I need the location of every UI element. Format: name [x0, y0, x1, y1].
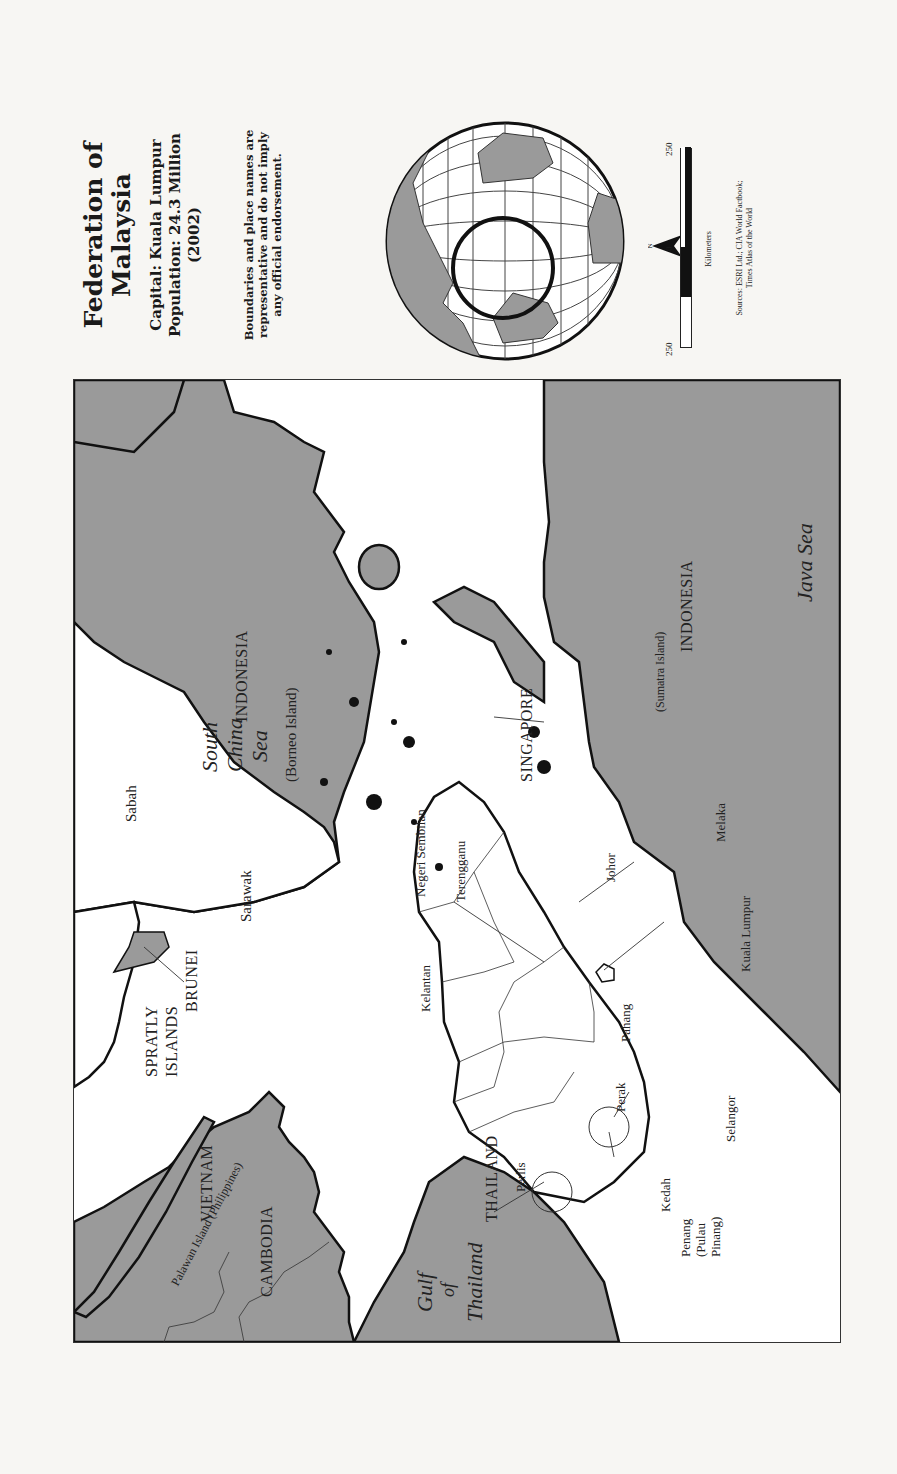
capital-text: Capital: Kuala Lumpur [147, 70, 166, 400]
label-selangor: Selangor [724, 1096, 737, 1142]
label-perlis: Perlis [514, 1162, 527, 1192]
rotated-map-sheet: CAMBODIA VIETNAM THAILAND SINGAPORE BRUN… [0, 0, 897, 1474]
scale-segment-3 [681, 147, 691, 247]
label-terengganu: Terengganu [454, 841, 467, 902]
label-johor: Johor [604, 853, 617, 882]
label-kedah: Kedah [659, 1178, 672, 1212]
scale-segment-2 [681, 247, 691, 297]
north-label: N [648, 243, 654, 248]
label-gulf: Gulf [414, 1273, 436, 1312]
label-pahang: Pahang [619, 1004, 632, 1042]
label-negeri-sembilan: Negeri Sembilan [414, 809, 427, 897]
label-china: China [224, 718, 246, 772]
scale-left-label: 250 [664, 343, 674, 357]
label-gulf-of: of [439, 1283, 457, 1297]
label-kuala-lumpur: Kuala Lumpur [739, 896, 752, 972]
label-gulf-thailand: Thailand [464, 1243, 486, 1322]
label-indonesia-borneo: INDONESIA [234, 630, 250, 722]
scale-right-label: 250 [664, 143, 674, 157]
label-sea: Sea [249, 730, 271, 762]
label-indonesia-sumatra: INDONESIA [679, 560, 695, 652]
kuala-lumpur-marker [596, 964, 614, 982]
scale-bar-graphic [680, 148, 692, 348]
label-perak: Perak [614, 1082, 627, 1112]
label-spratly: SPRATLY [144, 1006, 160, 1077]
title-block: Federation of Malaysia Capital: Kuala Lu… [80, 70, 285, 400]
label-penang-pinang: Pinang) [709, 1217, 722, 1257]
label-sabah: Sabah [124, 785, 139, 822]
label-south: South [199, 722, 221, 772]
label-penang: Penang [679, 1219, 692, 1257]
label-sumatra-island: (Sumatra Island) [654, 632, 666, 712]
sources-line1: Sources: ESRI Ltd.; CIA World Factbook; [735, 148, 745, 348]
label-kelantan: Kelantan [419, 965, 432, 1012]
map-title-line1: Federation of [80, 70, 108, 400]
bangka-island [434, 587, 544, 702]
label-cambodia: CAMBODIA [259, 1206, 275, 1297]
label-sarawak: Sarawak [239, 870, 254, 922]
scale-unit: Kilometers [704, 214, 713, 284]
sources-credit: Sources: ESRI Ltd.; CIA World Factbook; … [735, 148, 754, 348]
label-brunei: BRUNEI [184, 949, 200, 1012]
disclaimer-line3: any official endorsement. [271, 70, 285, 400]
label-thailand: THAILAND [484, 1135, 500, 1222]
sources-line2: Times Atlas of the World [745, 148, 755, 348]
label-java-sea: Java Sea [794, 523, 816, 602]
belitung-island [359, 545, 399, 589]
disclaimer-line2: representative and do not imply [257, 70, 271, 400]
peninsular-malaysia [414, 782, 649, 1202]
label-borneo-island: (Borneo Island) [284, 687, 299, 782]
population-year: (2002) [185, 70, 204, 400]
map-title-line2: Malaysia [108, 70, 136, 400]
scale-zero-label: 0 [664, 247, 674, 252]
map-frame: CAMBODIA VIETNAM THAILAND SINGAPORE BRUN… [73, 379, 841, 1343]
label-islands: ISLANDS [164, 1006, 180, 1077]
label-singapore: SINGAPORE [519, 688, 535, 782]
sabah-north [74, 902, 139, 1087]
scale-segment-1 [681, 297, 691, 347]
label-melaka: Melaka [714, 803, 727, 842]
population-text: Population: 24.3 Million [166, 70, 185, 400]
disclaimer-line1: Boundaries and place names are [243, 70, 257, 400]
label-penang-pulau: (Pulau [694, 1223, 707, 1257]
locator-globe-icon [383, 118, 628, 363]
scale-bar: 250 0 250 [680, 148, 692, 348]
